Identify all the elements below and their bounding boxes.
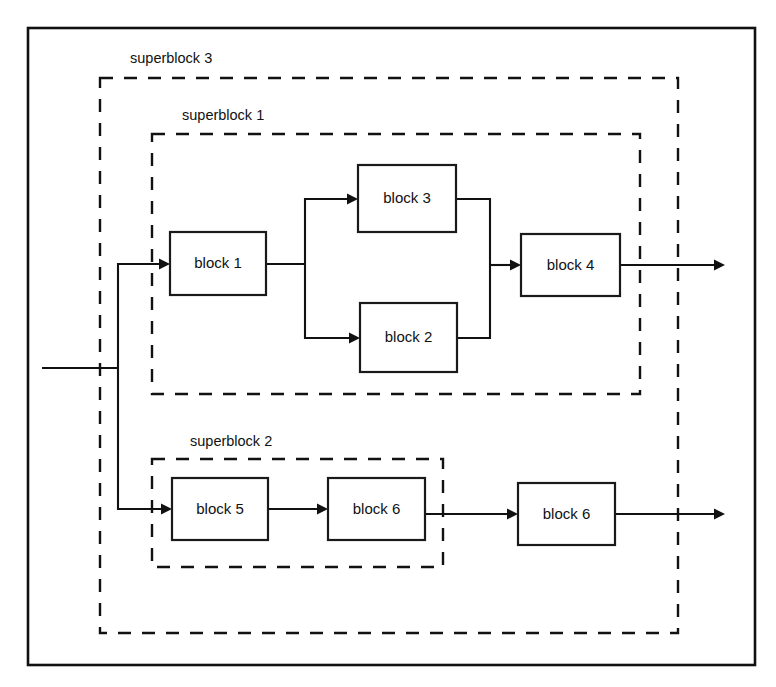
connector-fork-up bbox=[118, 259, 170, 368]
block-6-inner-label: block 6 bbox=[353, 500, 401, 517]
block-1[interactable]: block 1 bbox=[170, 232, 266, 295]
connector-b3-to-merge bbox=[456, 199, 490, 265]
wire-split-to-b3 bbox=[305, 199, 350, 264]
wire-b2-to-merge bbox=[457, 265, 490, 338]
block-4-label: block 4 bbox=[547, 256, 595, 273]
connector-split-to-b3 bbox=[305, 194, 358, 264]
arrowhead-fork-up bbox=[159, 259, 170, 270]
superblock-3-label: superblock 3 bbox=[130, 50, 212, 66]
block-1-label: block 1 bbox=[194, 254, 242, 271]
diagram-canvas: superblock 3superblock 1superblock 2 blo… bbox=[0, 0, 776, 687]
block-6-inner[interactable]: block 6 bbox=[328, 478, 425, 540]
connector-b6outer-output bbox=[615, 509, 725, 520]
arrowhead-b5-to-b6inner bbox=[317, 504, 328, 515]
block-2-label: block 2 bbox=[385, 328, 433, 345]
connector-b4-output bbox=[620, 260, 725, 271]
connector-merge-to-b4 bbox=[490, 260, 521, 271]
block-3[interactable]: block 3 bbox=[358, 165, 456, 232]
block-6-outer[interactable]: block 6 bbox=[518, 483, 615, 545]
connector-b5-to-b6inner bbox=[268, 504, 328, 515]
superblock-1-label: superblock 1 bbox=[182, 107, 264, 123]
arrowhead-split-to-b2 bbox=[349, 333, 360, 344]
arrowhead-fork-down bbox=[161, 504, 172, 515]
wire-split-to-b2 bbox=[305, 264, 352, 338]
arrowhead-b6inner-to-b6outer bbox=[507, 509, 518, 520]
block-2[interactable]: block 2 bbox=[360, 303, 457, 372]
block-5[interactable]: block 5 bbox=[172, 478, 268, 540]
connector-b2-to-merge bbox=[457, 265, 490, 338]
arrowhead-merge-to-b4 bbox=[510, 260, 521, 271]
connector-b6inner-to-b6outer bbox=[425, 509, 518, 520]
wire-fork-up bbox=[118, 264, 162, 368]
block-4[interactable]: block 4 bbox=[521, 234, 620, 296]
connector-fork-down bbox=[118, 368, 172, 514]
block-diagram: superblock 3superblock 1superblock 2 blo… bbox=[0, 0, 776, 687]
block-6-outer-label: block 6 bbox=[543, 505, 591, 522]
blocks-group: block 1block 3block 2block 4block 5block… bbox=[170, 165, 620, 545]
wire-fork-down bbox=[118, 368, 164, 509]
arrowhead-split-to-b3 bbox=[347, 194, 358, 205]
superblock-2-label: superblock 2 bbox=[190, 433, 272, 449]
wire-b6inner-to-b6outer bbox=[425, 509, 510, 514]
wire-b3-to-merge bbox=[456, 199, 490, 265]
arrowhead-b6outer-output bbox=[714, 509, 725, 520]
connector-split-to-b2 bbox=[305, 264, 360, 343]
block-3-label: block 3 bbox=[383, 189, 431, 206]
block-5-label: block 5 bbox=[196, 500, 244, 517]
arrowhead-b4-output bbox=[714, 260, 725, 271]
